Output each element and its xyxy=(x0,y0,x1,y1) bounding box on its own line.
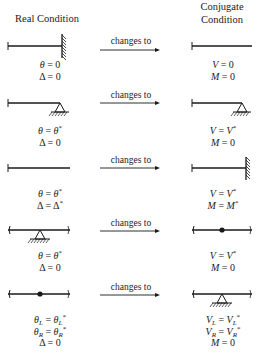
conjugate-beam-interior-pin xyxy=(0,0,259,357)
equation: VR = VR* xyxy=(183,326,259,338)
equation: VL = VL* xyxy=(183,314,259,326)
real-equations: θL = θL* θR = θR* Δ = 0 xyxy=(10,314,90,349)
equation: θR = θR* xyxy=(10,326,90,338)
equation: Δ = 0 xyxy=(10,337,90,349)
conjugate-equations: VL = VL* VR = VR* M = 0 xyxy=(183,314,259,349)
equation: M = 0 xyxy=(183,337,259,349)
equation: θL = θL* xyxy=(10,314,90,326)
